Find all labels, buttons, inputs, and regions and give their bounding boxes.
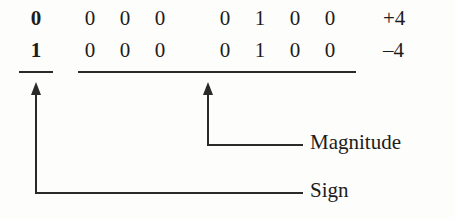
magnitude-label: Magnitude (310, 132, 401, 153)
magnitude-bit-negative-7: 0 (319, 40, 341, 61)
sign-label: Sign (310, 180, 349, 201)
magnitude-field-underline (78, 71, 356, 73)
magnitude-bit-negative-4: 0 (214, 40, 236, 61)
decimal-value-negative: –4 (383, 40, 404, 61)
magnitude-bit-positive-2: 0 (114, 8, 136, 29)
magnitude-bit-negative-3: 0 (149, 40, 171, 61)
magnitude-bit-negative-6: 0 (284, 40, 306, 61)
sign-bit-negative: 1 (25, 40, 47, 61)
magnitude-bit-negative-5: 1 (249, 40, 271, 61)
magnitude-leader-vertical (207, 94, 209, 145)
magnitude-bit-positive-6: 0 (284, 8, 306, 29)
magnitude-bit-positive-7: 0 (319, 8, 341, 29)
magnitude-bit-positive-5: 1 (249, 8, 271, 29)
sign-field-underline (19, 71, 53, 73)
magnitude-bit-positive-1: 0 (79, 8, 101, 29)
sign-leader-horizontal (35, 192, 303, 194)
decimal-value-positive: +4 (383, 8, 405, 29)
magnitude-bit-positive-3: 0 (149, 8, 171, 29)
magnitude-leader-horizontal (207, 144, 303, 146)
magnitude-bit-negative-2: 0 (114, 40, 136, 61)
sign-bit-positive: 0 (25, 8, 47, 29)
signed-magnitude-figure: 0 0 0 0 0 1 0 0 +4 1 0 0 0 0 1 0 0 –4 Si… (0, 0, 455, 219)
sign-leader-vertical (35, 94, 37, 193)
magnitude-bit-positive-4: 0 (214, 8, 236, 29)
magnitude-bit-negative-1: 0 (79, 40, 101, 61)
